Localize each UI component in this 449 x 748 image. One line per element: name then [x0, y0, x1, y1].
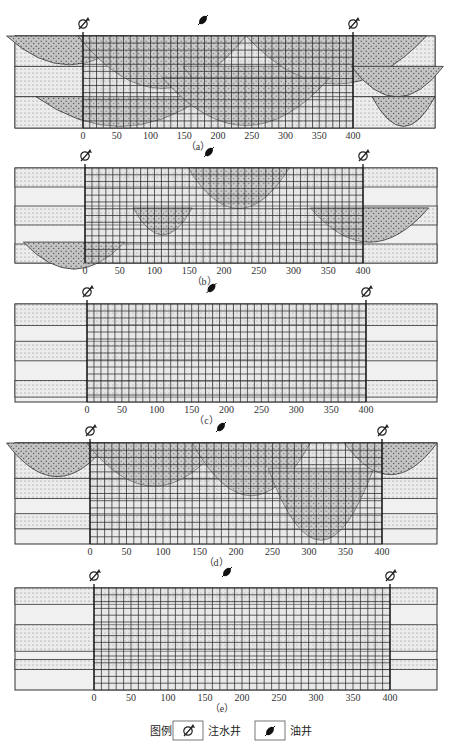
- x-tick-label: 100: [156, 546, 171, 557]
- x-tick-label: 300: [278, 130, 293, 141]
- x-tick-label: 200: [217, 265, 232, 276]
- x-tick-label: 0: [92, 692, 97, 703]
- x-tick-label: 400: [375, 546, 390, 557]
- x-tick-label: 100: [143, 130, 158, 141]
- x-tick-label: 400: [383, 692, 398, 703]
- x-tick-label: 300: [289, 404, 304, 415]
- water-injection-well-icon: [83, 285, 94, 297]
- x-tick-label: 300: [302, 546, 317, 557]
- panel-caption: （c）: [194, 415, 218, 426]
- x-tick-label: 150: [192, 546, 207, 557]
- x-tick-label: 350: [324, 404, 339, 415]
- panel-c: 050100150200250300350400（c）: [15, 282, 437, 426]
- x-tick-label: 200: [219, 404, 234, 415]
- x-tick-label: 0: [85, 404, 90, 415]
- water-injection-well-icon: [378, 424, 389, 436]
- legend-title: 图例: [150, 724, 172, 737]
- x-tick-label: 100: [147, 265, 162, 276]
- panel-a: 050100150200250300350400（a）: [7, 14, 444, 152]
- oil-well-icon: [197, 14, 208, 26]
- panel-e: 050100150200250300350400（e）: [15, 566, 437, 714]
- x-tick-label: 50: [115, 265, 125, 276]
- x-tick-label: 150: [182, 265, 197, 276]
- x-tick-label: 350: [346, 692, 361, 703]
- water-injection-well-icon: [90, 569, 101, 581]
- panel-caption: （e）: [210, 703, 234, 714]
- water-injection-well-icon: [386, 569, 397, 581]
- x-tick-label: 0: [88, 546, 93, 557]
- x-tick-label: 300: [309, 692, 324, 703]
- x-tick-label: 200: [211, 130, 226, 141]
- x-tick-label: 50: [122, 546, 132, 557]
- x-tick-label: 150: [198, 692, 213, 703]
- water-injection-well-icon: [362, 285, 373, 297]
- x-tick-label: 350: [321, 265, 336, 276]
- panel-b: 050100150200250300350400（b）: [15, 146, 437, 287]
- x-tick-label: 250: [244, 130, 259, 141]
- reservoir-model-figure: 050100150200250300350400（a）0501001502002…: [0, 0, 449, 748]
- water-injection-well-icon: [349, 17, 360, 29]
- x-tick-label: 100: [161, 692, 176, 703]
- x-tick-label: 400: [346, 130, 361, 141]
- water-injection-well-icon: [86, 424, 97, 436]
- legend-label-injection-well: 注水井: [208, 724, 241, 737]
- x-tick-label: 350: [312, 130, 327, 141]
- x-tick-label: 100: [149, 404, 164, 415]
- x-tick-label: 0: [83, 265, 88, 276]
- x-tick-label: 0: [81, 130, 86, 141]
- x-tick-label: 50: [112, 130, 122, 141]
- x-tick-label: 300: [286, 265, 301, 276]
- x-tick-label: 150: [177, 130, 192, 141]
- panel-d: 050100150200250300350400（d）: [7, 421, 437, 568]
- water-injection-well-icon: [359, 149, 370, 161]
- x-tick-label: 400: [359, 404, 374, 415]
- x-tick-label: 400: [356, 265, 371, 276]
- water-injection-well-icon: [79, 17, 90, 29]
- water-injection-well-icon: [81, 149, 92, 161]
- x-tick-label: 50: [126, 692, 136, 703]
- legend-label-oil-well: 油井: [290, 724, 312, 737]
- x-tick-label: 350: [338, 546, 353, 557]
- x-tick-label: 250: [272, 692, 287, 703]
- x-tick-label: 250: [251, 265, 266, 276]
- x-tick-label: 200: [235, 692, 250, 703]
- x-tick-label: 250: [265, 546, 280, 557]
- x-tick-label: 200: [229, 546, 244, 557]
- x-tick-label: 50: [117, 404, 127, 415]
- legend: 图例注水井油井: [150, 721, 312, 740]
- x-tick-label: 150: [184, 404, 199, 415]
- x-tick-label: 250: [254, 404, 269, 415]
- panel-caption: （d）: [204, 557, 229, 568]
